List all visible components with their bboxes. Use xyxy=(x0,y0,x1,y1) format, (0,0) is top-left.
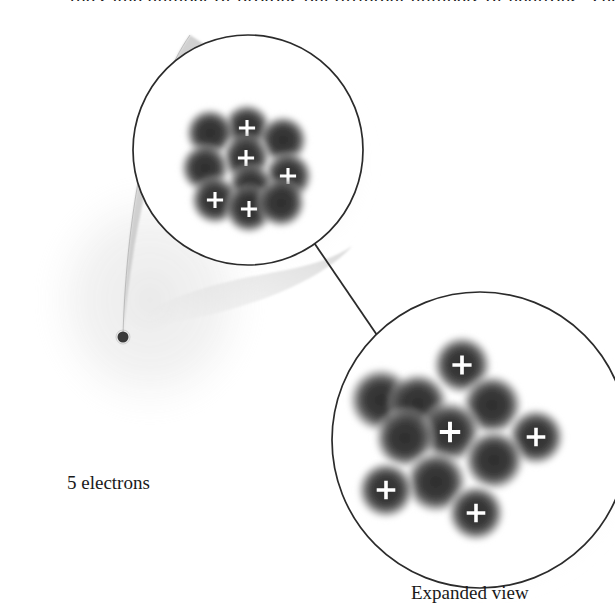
atom-figure: the same number of protons but different… xyxy=(0,0,615,614)
expanded-proton-10 xyxy=(355,459,417,521)
expanded-proton-11 xyxy=(445,482,507,544)
atom-illustration-svg xyxy=(0,0,615,614)
electrons-label: 5 electrons xyxy=(67,473,150,492)
expanded-view-label: Expanded view xyxy=(411,583,529,602)
nucleon-10-body xyxy=(254,176,308,230)
electron-dot xyxy=(118,332,129,343)
expanded-view-circle xyxy=(332,292,615,588)
atom-magnifier-circle xyxy=(133,35,363,265)
nucleus-cluster xyxy=(178,101,315,236)
nucleon-10 xyxy=(254,176,308,230)
